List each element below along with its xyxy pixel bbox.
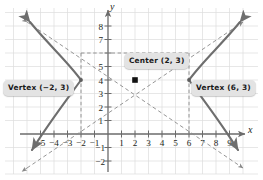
- vertex-right-callout: Vertex (6, 3): [191, 80, 256, 96]
- x-tick-label: −3: [63, 138, 73, 148]
- y-axis-label: y: [110, 1, 114, 12]
- x-tick-label: 7: [200, 138, 205, 148]
- y-tick-label: 3: [98, 89, 103, 99]
- y-tick-labels: 8 7 5 4 3 2 1 −1 −2: [95, 22, 105, 167]
- y-tick-label: 8: [98, 22, 103, 32]
- vertex-left-callout: Vertex (−2, 3): [3, 80, 74, 96]
- x-axis-label: x: [248, 124, 252, 135]
- x-tick-label: 3: [146, 138, 151, 148]
- x-tick-label: 5: [173, 138, 178, 148]
- center-callout: Center (2, 3): [124, 53, 189, 69]
- asymptote-positive-slope-start: [22, 168, 27, 172]
- y-tick-label: 4: [98, 76, 103, 86]
- y-tick-label: 7: [98, 35, 103, 45]
- x-tick-labels: −5 −4 −3 −2 −1 1 2 3 4 5 6 7 8 9: [36, 138, 233, 148]
- y-tick-label: −2: [95, 157, 105, 167]
- x-tick-label: −2: [76, 138, 86, 148]
- x-tick-label: 6: [187, 138, 192, 148]
- y-tick-label: −1: [95, 143, 105, 153]
- x-tick-label: 2: [133, 138, 138, 148]
- x-tick-label: −4: [49, 138, 59, 148]
- vertex-right-point: [187, 78, 191, 82]
- x-tick-label: 4: [160, 138, 165, 148]
- vertex-left-point: [79, 78, 83, 82]
- hyperbola-figure: −5 −4 −3 −2 −1 1 2 3 4 5 6 7 8 9 8 7 5 4…: [0, 0, 263, 180]
- x-tick-label: 1: [119, 138, 124, 148]
- x-tick-label: 8: [214, 138, 219, 148]
- y-tick-label: 2: [98, 103, 103, 113]
- y-tick-label: 1: [98, 116, 103, 126]
- asymptotes: [22, 22, 243, 172]
- center-point: [132, 77, 138, 83]
